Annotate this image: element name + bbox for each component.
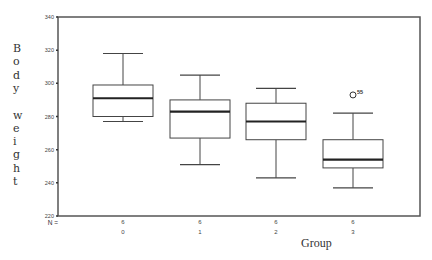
y-axis-label-letter: B: [13, 42, 21, 55]
y-axis-label-letter: o: [13, 55, 20, 68]
y-axis-label-letter: e: [13, 122, 20, 135]
y-axis-label-letter: w: [13, 109, 22, 122]
y-axis-label-letter: g: [13, 148, 20, 161]
y-tick-label: 260: [45, 147, 54, 153]
y-axis-label-letter: i: [13, 135, 17, 148]
box-group-2: [246, 88, 306, 178]
box-group-0: [93, 53, 153, 121]
box-group-1: [170, 75, 230, 165]
category-label: 0: [121, 229, 125, 235]
y-axis-ticks: 220240260280300320340: [45, 14, 58, 219]
category-label: 2: [274, 229, 278, 235]
y-tick-label: 320: [45, 47, 54, 53]
box-plot-chart: 220240260280300320340 55 N =60616263: [0, 0, 432, 260]
box-group-3: 55: [323, 89, 383, 188]
y-axis-label-letter: y: [13, 82, 19, 95]
x-axis-label: Group: [301, 236, 332, 251]
outlier-label: 55: [357, 89, 363, 95]
y-axis-label-letter: t: [13, 175, 17, 188]
n-value: 6: [121, 219, 125, 225]
iqr-box: [170, 100, 230, 138]
iqr-box: [93, 85, 153, 117]
y-tick-label: 300: [45, 80, 54, 86]
y-tick-label: 240: [45, 180, 54, 186]
n-label: N =: [48, 219, 59, 226]
x-axis-labels: N =60616263: [48, 219, 355, 235]
n-value: 6: [198, 219, 202, 225]
y-axis-label-letter: h: [13, 162, 20, 175]
category-label: 3: [351, 229, 355, 235]
n-value: 6: [351, 219, 355, 225]
iqr-box: [323, 140, 383, 168]
n-value: 6: [274, 219, 278, 225]
outlier-marker: [350, 92, 356, 98]
boxes: 55: [93, 53, 383, 187]
y-tick-label: 340: [45, 14, 54, 20]
category-label: 1: [198, 229, 202, 235]
y-axis-label-letter: d: [13, 69, 20, 82]
y-tick-label: 280: [45, 114, 54, 120]
